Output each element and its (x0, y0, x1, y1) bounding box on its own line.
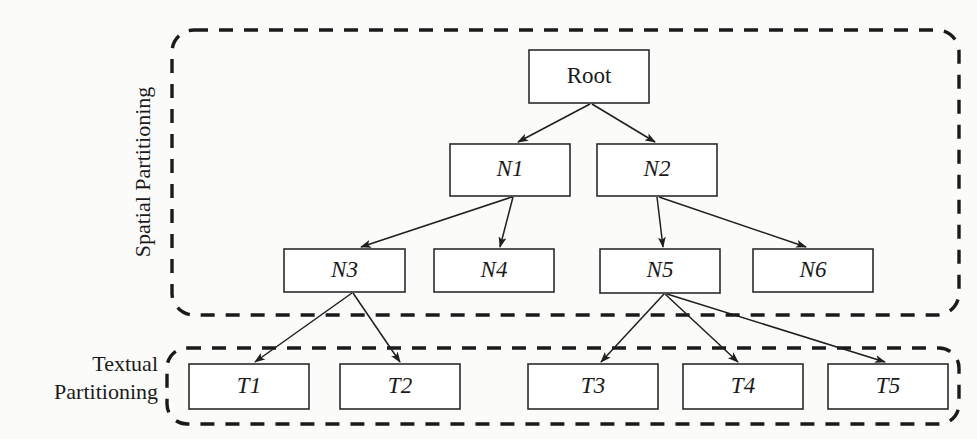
edge-n3-to-t2 (353, 293, 400, 362)
group-label-spatial-partitioning: Spatial Partitioning (130, 87, 155, 258)
node-label-n5: N5 (646, 257, 674, 282)
node-n4[interactable]: N4 (434, 249, 554, 292)
node-label-n6: N6 (799, 257, 827, 282)
node-t3[interactable]: T3 (528, 364, 658, 409)
node-label-t5: T5 (876, 373, 900, 398)
node-label-n1: N1 (496, 156, 524, 181)
node-t2[interactable]: T2 (340, 364, 460, 409)
node-label-t3: T3 (581, 373, 605, 398)
edge-n5-to-t3 (601, 294, 664, 362)
group-labels-layer: Spatial PartitioningTextualPartitioning (54, 87, 158, 404)
node-t1[interactable]: T1 (189, 364, 309, 409)
edges-layer (255, 104, 885, 362)
node-n3[interactable]: N3 (284, 249, 405, 292)
node-t4[interactable]: T4 (683, 364, 803, 409)
tree-diagram: RootN1N2N3N4N5N6T1T2T3T4T5 Spatial Parti… (0, 0, 977, 439)
edge-root-to-n2 (592, 104, 655, 142)
node-label-t1: T1 (237, 373, 261, 398)
edge-n3-to-t1 (255, 293, 352, 362)
node-t5[interactable]: T5 (828, 364, 948, 409)
edge-n5-to-t5 (667, 294, 885, 362)
edge-n1-to-n3 (361, 197, 512, 247)
edge-n2-to-n6 (659, 197, 806, 247)
node-label-n4: N4 (480, 257, 508, 282)
node-label-t2: T2 (388, 373, 412, 398)
node-label-n2: N2 (643, 156, 671, 181)
node-n5[interactable]: N5 (600, 249, 720, 293)
node-label-root: Root (567, 63, 612, 88)
node-label-t4: T4 (731, 373, 755, 398)
edge-root-to-n1 (518, 104, 590, 142)
node-root[interactable]: Root (529, 50, 649, 103)
group-label-textual-partitioning: TextualPartitioning (54, 351, 158, 404)
edge-n1-to-n4 (500, 197, 513, 247)
node-n6[interactable]: N6 (753, 249, 873, 292)
nodes-layer: RootN1N2N3N4N5N6T1T2T3T4T5 (189, 50, 948, 409)
edge-n2-to-n5 (657, 197, 663, 247)
figure-canvas: RootN1N2N3N4N5N6T1T2T3T4T5 Spatial Parti… (0, 0, 977, 439)
node-label-n3: N3 (330, 257, 358, 282)
node-n2[interactable]: N2 (597, 144, 717, 196)
node-n1[interactable]: N1 (450, 144, 570, 196)
